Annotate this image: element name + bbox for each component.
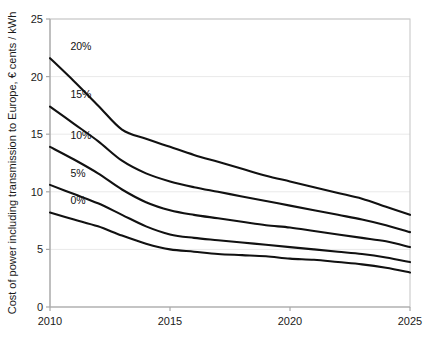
y-tick-label-15: 15 xyxy=(31,128,43,140)
y-axis-title: Cost of power including transmission to … xyxy=(6,12,18,315)
chart-container: 0510152025 2010201520202025 20%15%10%5%0… xyxy=(0,0,428,341)
series-label-15pct: 15% xyxy=(70,88,91,100)
y-tick-label-0: 0 xyxy=(37,301,43,313)
y-tick-label-20: 20 xyxy=(31,71,43,83)
x-axis: 2010201520202025 xyxy=(38,307,422,327)
line-chart: 0510152025 2010201520202025 20%15%10%5%0… xyxy=(0,0,428,341)
series-label-20pct: 20% xyxy=(70,40,91,52)
y-tick-label-25: 25 xyxy=(31,13,43,25)
x-tick-label-2020: 2020 xyxy=(278,315,302,327)
series-label-5pct: 5% xyxy=(70,167,85,179)
x-tick-label-2025: 2025 xyxy=(398,315,422,327)
series-label-10pct: 10% xyxy=(70,129,91,141)
series-label-0pct: 0% xyxy=(70,194,85,206)
x-tick-label-2015: 2015 xyxy=(158,315,182,327)
y-axis: 0510152025 xyxy=(31,13,50,313)
y-tick-label-5: 5 xyxy=(37,243,43,255)
y-axis-title-group: Cost of power including transmission to … xyxy=(6,12,18,315)
y-tick-label-10: 10 xyxy=(31,186,43,198)
x-tick-label-2010: 2010 xyxy=(38,315,62,327)
